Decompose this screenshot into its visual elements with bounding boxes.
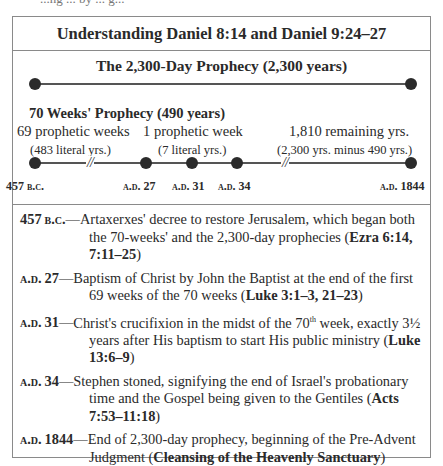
paren-close: ) — [130, 349, 135, 365]
note-ad27: A.D. 27—Baptism of Christ by John the Ba… — [20, 270, 424, 305]
point-year: 457 — [6, 179, 24, 193]
note-date-number: 31 — [45, 314, 59, 330]
paren-close: ) — [136, 246, 141, 262]
dash: — — [59, 270, 73, 286]
seventy-weeks-title: 70 Weeks' Prophecy (490 years) — [29, 105, 225, 122]
break-mark-2: // — [281, 156, 289, 170]
dash: — — [66, 211, 80, 227]
note-date-number: 27 — [45, 270, 59, 286]
note-date: A.D. 1844— — [20, 431, 88, 447]
point-era: A.D. — [172, 179, 190, 193]
segment-remaining-label: 1,810 remaining yrs. — [289, 123, 409, 140]
point-era: A.D. — [123, 179, 141, 193]
point-label-ad34: A.D. 34 — [218, 179, 251, 194]
timeline-dot-ad31 — [186, 157, 198, 169]
point-label-ad1844: A.D. 1844 — [380, 179, 425, 194]
diagram-box: Understanding Daniel 8:14 and Daniel 9:2… — [12, 16, 431, 458]
paren-close: ) — [380, 449, 385, 465]
point-era: A.D. — [380, 179, 398, 193]
break-mark-1: // — [86, 156, 94, 170]
prophecy-2300-title: The 2,300-Day Prophecy (2,300 years) — [13, 57, 430, 75]
dash: — — [59, 314, 73, 330]
note-date: 457 B.C.— — [20, 211, 80, 227]
note-date: A.D. 34— — [20, 373, 73, 389]
notes-list: 457 B.C.—Artaxerxes' decree to restore J… — [13, 205, 430, 466]
dash: — — [59, 373, 73, 389]
segment-1-week-label: 1 prophetic week — [143, 123, 243, 140]
note-ad34: A.D. 34—Stephen stoned, signifying the e… — [20, 373, 424, 426]
point-label-ad31: A.D. 31 — [172, 179, 205, 194]
timeline-section: The 2,300-Day Prophecy (2,300 years) 70 … — [13, 51, 430, 205]
cropped-text-fragment: ...ng ... by ... g... — [40, 0, 125, 7]
point-era: A.D. — [218, 179, 236, 193]
point-year: 1844 — [401, 179, 425, 193]
note-ad1844: A.D. 1844—End of 2,300-day prophecy, beg… — [20, 431, 424, 466]
note-text: Stephen stoned, signifying the end of Is… — [73, 373, 408, 407]
note-457bc: 457 B.C.—Artaxerxes' decree to restore J… — [20, 211, 424, 264]
timeline-dot-ad34 — [231, 157, 243, 169]
point-era: B.C. — [27, 179, 44, 193]
diagram-title: Understanding Daniel 8:14 and Daniel 9:2… — [13, 17, 430, 51]
point-year: 27 — [144, 179, 156, 193]
paren-close: ) — [155, 408, 160, 424]
note-ad31: A.D. 31—Christ's crucifixion in the mids… — [20, 311, 424, 367]
timeline-dot-ad1844 — [405, 157, 417, 169]
prophecy-2300-line — [35, 83, 411, 85]
point-year: 34 — [239, 179, 251, 193]
point-label-457bc: 457 B.C. — [6, 179, 44, 194]
timeline-dot-end — [405, 78, 417, 90]
note-date-number: 34 — [45, 373, 59, 389]
note-date: A.D. 27— — [20, 270, 73, 286]
segment-69-weeks-label: 69 prophetic weeks — [17, 123, 130, 140]
note-date: A.D. 31— — [20, 314, 73, 330]
note-date-number: 457 — [20, 211, 42, 227]
point-label-ad27: A.D. 27 — [123, 179, 156, 194]
dash: — — [73, 431, 87, 447]
note-date-era: B.C. — [44, 211, 65, 227]
scripture-ref: Cleansing of the Heavenly Sanctuary — [153, 449, 380, 465]
segment-69-weeks-sub: (483 literal yrs.) — [30, 143, 111, 158]
note-date-era: A.D. — [20, 270, 42, 286]
point-year: 31 — [193, 179, 205, 193]
segment-remaining-sub: (2,300 yrs. minus 490 yrs.) — [277, 143, 412, 158]
note-date-number: 1844 — [45, 431, 74, 447]
timeline-dot-457bc — [29, 157, 41, 169]
note-date-era: A.D. — [20, 431, 42, 447]
timeline-dot-start — [29, 78, 41, 90]
note-text: Christ's crucifixion in the midst of the… — [73, 314, 309, 330]
scripture-ref: Luke 3:1–3, 21–23 — [246, 287, 358, 303]
timeline-dot-ad27 — [140, 157, 152, 169]
segment-1-week-sub: (7 literal yrs.) — [158, 143, 226, 158]
note-date-era: A.D. — [20, 373, 42, 389]
paren-close: ) — [358, 287, 363, 303]
note-date-era: A.D. — [20, 314, 42, 330]
